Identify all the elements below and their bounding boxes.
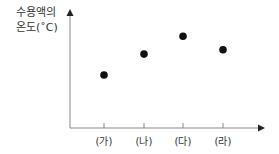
data-point: [140, 50, 148, 58]
x-ticks: [104, 123, 223, 128]
data-point: [219, 46, 227, 54]
x-tick-label: (가): [96, 133, 113, 148]
x-tick-label: (다): [175, 133, 192, 148]
y-axis-arrow-icon: [67, 9, 74, 16]
data-point: [179, 33, 187, 41]
data-points: [100, 33, 227, 79]
chart-plot: [0, 0, 279, 154]
data-point: [100, 71, 108, 79]
x-axis-arrow-icon: [258, 125, 265, 132]
x-tick-label: (라): [215, 133, 232, 148]
x-tick-label: (나): [136, 133, 153, 148]
